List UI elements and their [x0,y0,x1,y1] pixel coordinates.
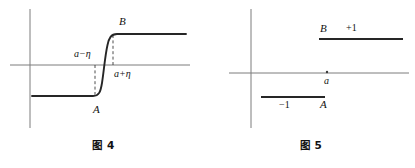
figure-sheet: B A a−η a+η 图 4 B +1 −1 A a 图 5 [0,0,415,168]
figure-5-label-minus-one: −1 [279,100,290,110]
figure-5-point-a-marker [326,71,328,73]
figure-5-panel: B +1 −1 A a 图 5 [207,0,415,168]
figure-4-label-A: A [93,104,100,115]
figure-5-label-A: A [320,99,327,110]
figure-5-caption: 图 5 [207,137,415,152]
figure-5-label-B: B [320,23,327,34]
figure-4-panel: B A a−η a+η 图 4 [0,0,207,168]
figure-4-label-a-minus-eta: a−η [74,49,91,59]
figure-4-label-a-plus-eta: a+η [114,69,131,79]
figure-5-label-plus-one: +1 [346,23,357,33]
figure-5-label-a: a [324,76,329,86]
figure-4-label-B: B [119,16,126,27]
figure-4-caption: 图 4 [0,137,207,152]
